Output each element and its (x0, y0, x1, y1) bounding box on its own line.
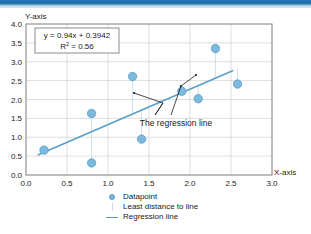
svg-text:0.0: 0.0 (11, 171, 23, 180)
svg-text:3.0: 3.0 (266, 179, 278, 188)
data-point (40, 146, 48, 154)
chart-figure: Y-axis X-axis 0.00.51.01.52.02.53.0 0.00… (0, 0, 311, 234)
legend-label-datapoint: Datapoint (123, 192, 157, 202)
circle-marker-icon (106, 192, 120, 202)
horizontal-line-icon (106, 212, 120, 222)
chart-legend: Datapoint Least distance to line Regress… (106, 192, 256, 222)
data-point (211, 44, 219, 52)
r-value: = 0.56 (69, 42, 94, 51)
annotation-dot-right-tip (195, 74, 197, 76)
svg-text:0.5: 0.5 (11, 152, 23, 161)
svg-text:0.5: 0.5 (61, 179, 73, 188)
legend-item-least-distance: Least distance to line (106, 202, 256, 212)
svg-text:4.0: 4.0 (11, 20, 23, 29)
svg-text:2.0: 2.0 (184, 179, 196, 188)
legend-label-least-distance: Least distance to line (123, 202, 198, 212)
svg-text:1.5: 1.5 (143, 179, 155, 188)
data-point (194, 95, 202, 103)
data-point (87, 159, 95, 167)
svg-text:2.5: 2.5 (11, 77, 23, 86)
data-point (87, 109, 95, 117)
svg-text:3.0: 3.0 (11, 58, 23, 67)
annotation-label: The regression line (140, 118, 213, 128)
equation-box: y = 0.94x + 0.3942 R2 = 0.56 (35, 28, 119, 53)
vertical-line-icon (106, 202, 120, 212)
r-squared-text: R2 = 0.56 (60, 41, 94, 51)
x-axis-tick-labels: 0.00.51.01.52.02.53.0 (20, 179, 278, 188)
svg-text:1.0: 1.0 (102, 179, 114, 188)
legend-item-datapoint: Datapoint (106, 192, 256, 202)
svg-text:1.0: 1.0 (11, 133, 23, 142)
legend-item-regression-line: Regression line (106, 212, 256, 222)
svg-text:2.0: 2.0 (11, 96, 23, 105)
legend-label-regression-line: Regression line (123, 212, 178, 222)
svg-text:1.5: 1.5 (11, 114, 23, 123)
annotation-dot-left (133, 92, 135, 94)
svg-text:0.0: 0.0 (20, 179, 32, 188)
data-point (233, 80, 241, 88)
svg-text:2.5: 2.5 (225, 179, 237, 188)
data-point (137, 135, 145, 143)
equation-text: y = 0.94x + 0.3942 (44, 31, 111, 40)
svg-text:3.5: 3.5 (11, 39, 23, 48)
annotation-dot-right (180, 85, 182, 87)
y-axis-tick-labels: 0.00.51.01.52.02.53.03.54.0 (11, 20, 23, 180)
data-point (128, 72, 136, 80)
